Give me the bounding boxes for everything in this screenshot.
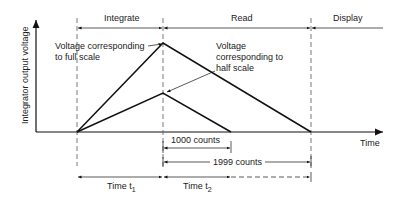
half-scale-label-line3: half scale bbox=[216, 63, 254, 73]
time-t2-text: Time t bbox=[183, 181, 208, 191]
half-scale-label-line1: Voltage bbox=[216, 41, 246, 51]
time-t2-subscript: 2 bbox=[208, 186, 212, 193]
x-axis-label: Time bbox=[360, 138, 380, 148]
half-scale-label-line2: corresponding to bbox=[216, 52, 283, 62]
full-scale-label-line1: Voltage corresponding bbox=[55, 41, 145, 51]
half-scale-waveform bbox=[77, 93, 231, 132]
count-label-1999: 1999 counts bbox=[213, 157, 262, 167]
half-scale-pointer bbox=[167, 71, 215, 92]
time-t1-text: Time t bbox=[107, 181, 132, 191]
full-scale-label-line2: to full scale bbox=[55, 52, 100, 62]
time-t1-subscript: 1 bbox=[132, 186, 136, 193]
phase-label-integrate: Integrate bbox=[104, 13, 140, 23]
integrator-diagram bbox=[0, 0, 400, 199]
y-axis-label: Integrator output voltage bbox=[20, 26, 30, 124]
phase-label-display: Display bbox=[333, 13, 363, 23]
time-t2-label: Time t2 bbox=[183, 181, 212, 195]
count-label-1000: 1000 counts bbox=[171, 135, 220, 145]
time-t1-label: Time t1 bbox=[107, 181, 136, 195]
phase-label-read: Read bbox=[231, 13, 253, 23]
